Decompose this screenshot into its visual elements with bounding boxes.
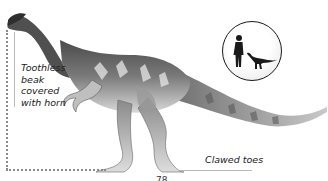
toes-callout-line	[180, 170, 252, 171]
beak-annotation-line-2: beak	[21, 74, 81, 86]
height-measure-dotted-line	[6, 30, 8, 170]
beak-annotation-line-3: covered	[21, 85, 81, 97]
beak-annotation: Toothless beak covered with horn	[21, 62, 81, 108]
beak-callout-line	[14, 32, 15, 107]
dinosaur-silhouette-icon	[247, 53, 277, 69]
toes-annotation: Clawed toes	[205, 154, 263, 165]
beak-annotation-line-1: Toothless	[21, 62, 81, 74]
page-number: 78	[156, 176, 167, 181]
beak-annotation-line-4: with horn	[21, 97, 81, 109]
book-page: Toothless beak covered with horn Clawed …	[0, 0, 328, 181]
size-comparison-inset	[222, 21, 282, 81]
base-measure-dotted-line	[6, 169, 106, 171]
human-silhouette-icon	[234, 35, 244, 67]
